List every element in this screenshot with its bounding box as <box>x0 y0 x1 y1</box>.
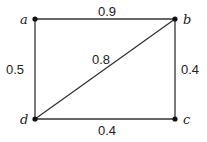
edge-weight-a-b: 0.9 <box>98 4 116 19</box>
node-label-c: c <box>183 112 191 127</box>
node-label-d: d <box>20 112 28 127</box>
node-label-b: b <box>183 12 191 27</box>
edge-d-b <box>35 19 175 119</box>
weighted-graph-diagram: a b c d 0.9 0.5 0.4 0.4 0.8 <box>0 0 207 142</box>
node-label-a: a <box>20 12 28 27</box>
edge-weight-b-c: 0.4 <box>181 62 199 77</box>
node-b <box>172 16 177 21</box>
edge-weight-d-b: 0.8 <box>92 52 110 67</box>
edge-weight-d-c: 0.4 <box>98 123 116 138</box>
node-a <box>32 16 37 21</box>
edge-weight-a-d: 0.5 <box>6 62 24 77</box>
node-d <box>32 116 37 121</box>
node-c <box>172 116 177 121</box>
